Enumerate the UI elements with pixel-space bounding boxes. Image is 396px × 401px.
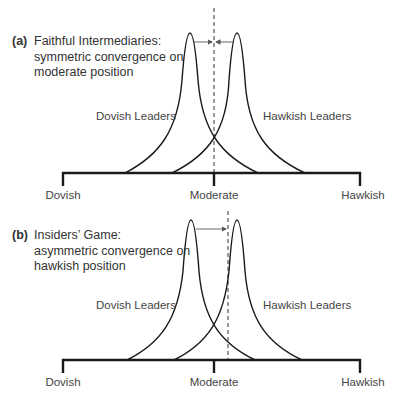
panel-b-title-line-2: asymmetric convergence on [34,244,234,260]
panel-a-title-line-1: Faithful Intermediaries: [34,34,234,50]
panel-a-axis-dovish: Dovish [45,189,80,201]
panel-b-insiders-game: (b) Insiders’ Game: asymmetric convergen… [0,205,396,401]
panel-b-dovish-leaders-label: Dovish Leaders [96,299,176,311]
panel-a-faithful-intermediaries: (a) Faithful Intermediaries: symmetric c… [0,0,396,205]
panel-b-hawkish-leaders-label: Hawkish Leaders [263,299,351,311]
panel-b-tag: (b) [12,228,28,244]
panel-a-axis-moderate: Moderate [190,189,239,201]
panel-a-title-line-3: moderate position [34,65,234,81]
panel-b-title-line-3: hawkish position [34,259,234,275]
panel-a-title-line-2: symmetric convergence on [34,50,234,66]
panel-a-dovish-leaders-label: Dovish Leaders [96,110,176,122]
panel-a-hawkish-leaders-label: Hawkish Leaders [263,110,351,122]
panel-a-tag: (a) [12,34,27,50]
panel-a-axis-hawkish: Hawkish [341,189,384,201]
panel-b-title-line-1: Insiders’ Game: [34,228,234,244]
panel-b-axis-dovish: Dovish [45,376,80,388]
panel-b-axis-hawkish: Hawkish [341,376,384,388]
panel-b-axis-moderate: Moderate [190,376,239,388]
panel-a-plot [0,0,396,205]
